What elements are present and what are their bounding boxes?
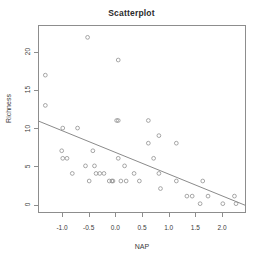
x-tick-label: -0.5 (77, 224, 101, 231)
data-point (119, 179, 123, 183)
data-point (43, 73, 47, 77)
data-point (76, 126, 80, 130)
data-point (157, 134, 161, 138)
y-tick-label: 0 (23, 195, 32, 215)
data-point (185, 194, 189, 198)
data-point (61, 126, 65, 130)
scatterplot-figure: Scatterplot Richness NAP -1.0-0.50.00.51… (0, 0, 263, 261)
data-point (116, 156, 120, 160)
y-tick-mark (34, 205, 38, 206)
x-tick-label: 0.0 (103, 224, 127, 231)
data-point (152, 156, 156, 160)
data-point (116, 58, 120, 62)
data-point (221, 202, 225, 206)
data-point (137, 179, 141, 183)
x-tick-mark (142, 213, 143, 217)
page-title: Scatterplot (0, 8, 263, 18)
x-tick-label: 1.0 (157, 224, 181, 231)
data-point (190, 194, 194, 198)
data-point (98, 172, 102, 176)
y-tick-label: 20 (23, 42, 32, 62)
y-axis-title: Richness (5, 79, 12, 139)
y-tick-label: 5 (23, 156, 32, 176)
data-point (91, 149, 95, 153)
x-tick-mark (115, 213, 116, 217)
data-point (174, 179, 178, 183)
data-point (61, 156, 65, 160)
data-point (174, 141, 178, 145)
y-tick-mark (34, 128, 38, 129)
data-point (94, 172, 98, 176)
regression-line (39, 121, 245, 205)
data-point (84, 164, 88, 168)
y-tick-mark (34, 52, 38, 53)
y-tick-mark (34, 90, 38, 91)
data-point (146, 141, 150, 145)
data-point (86, 35, 90, 39)
x-tick-mark (222, 213, 223, 217)
data-layer (39, 26, 245, 212)
y-tick-label: 10 (23, 118, 32, 138)
data-point (123, 164, 127, 168)
data-point (70, 172, 74, 176)
x-tick-mark (89, 213, 90, 217)
x-tick-label: 2.0 (210, 224, 234, 231)
data-point (146, 119, 150, 123)
x-tick-mark (169, 213, 170, 217)
data-point (233, 194, 237, 198)
x-axis-title: NAP (38, 243, 246, 250)
y-tick-label: 15 (23, 80, 32, 100)
y-tick-mark (34, 166, 38, 167)
data-point (87, 179, 91, 183)
data-point (65, 156, 69, 160)
data-point (201, 179, 205, 183)
data-point (43, 104, 47, 108)
data-point (132, 172, 136, 176)
plot-frame (38, 25, 246, 213)
x-tick-label: 1.5 (183, 224, 207, 231)
data-point (60, 149, 64, 153)
data-point (234, 202, 238, 206)
x-tick-mark (62, 213, 63, 217)
data-point (93, 164, 97, 168)
data-point (159, 187, 163, 191)
x-tick-label: 0.5 (130, 224, 154, 231)
data-point (206, 194, 210, 198)
data-point (198, 202, 202, 206)
data-point (102, 172, 106, 176)
data-point (124, 179, 128, 183)
x-tick-label: -1.0 (50, 224, 74, 231)
data-point (157, 172, 161, 176)
x-tick-mark (195, 213, 196, 217)
